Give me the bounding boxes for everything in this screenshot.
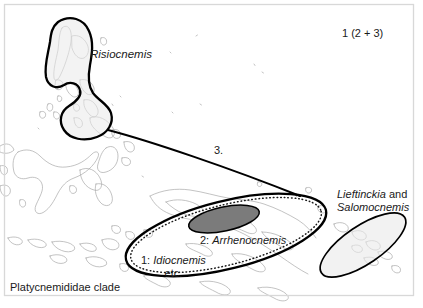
label-risiocnemis: Risiocnemis — [90, 48, 152, 62]
speckle-9 — [38, 128, 39, 129]
coast-java-w — [19, 199, 25, 207]
coast-sunda-6 — [50, 255, 67, 264]
genus-lieftinckia: Lieftinckia — [337, 188, 386, 200]
coast-sumatra-n — [0, 165, 8, 174]
coast-sunda-5 — [102, 239, 119, 250]
speckle-3 — [262, 72, 264, 73]
coast-sumatra-s — [0, 185, 10, 196]
link-3-connector — [108, 130, 300, 196]
label-platycnemididae-clade: Platycnemididae clade — [10, 281, 120, 294]
label-arrhenocnemis-number: 2: — [200, 234, 212, 246]
speckle-7 — [112, 104, 113, 106]
coast-small-12 — [305, 187, 311, 193]
biogeography-figure: Risiocnemis 1 (2 + 3) 3. Lieftinckia and… — [0, 0, 423, 308]
label-idiocnemis-number: 1: — [141, 254, 153, 266]
speckle-4 — [170, 52, 171, 53]
speckle-10 — [142, 176, 144, 177]
label-lieftinckia-salomocnemis: Lieftinckia and Salomocnemis — [337, 188, 409, 214]
coast-sulawesi-n — [97, 146, 118, 172]
speckle-2 — [254, 64, 255, 66]
speckle-11 — [296, 196, 297, 197]
coast-small-8 — [100, 37, 106, 45]
label-lieftinckia-line1: Lieftinckia and — [337, 188, 409, 201]
coast-buru — [112, 225, 121, 233]
speckle-6 — [172, 112, 173, 113]
label-arrhenocnemis: 2: Arrhenocnemis — [200, 234, 286, 247]
label-idiocnemis: 1: Idiocnemis etc. — [141, 254, 206, 280]
coast-new-britain — [334, 223, 348, 233]
speckle-5 — [200, 104, 202, 105]
conjunction-and: and — [386, 188, 407, 200]
genus-salomocnemis: Salomocnemis — [337, 201, 409, 213]
coast-cape-york — [258, 287, 288, 301]
coast-small-3 — [57, 96, 62, 102]
coast-sulawesi-w — [80, 168, 102, 190]
figure-canvas — [0, 0, 423, 308]
label-idiocnemis-line1: 1: Idiocnemis — [141, 254, 206, 267]
coast-small-4 — [47, 103, 53, 111]
label-lieftinckia-line2: Salomocnemis — [337, 201, 409, 214]
speckle-8 — [120, 96, 121, 97]
coast-sunda-3 — [52, 241, 75, 252]
coast-small-13 — [257, 182, 262, 187]
genus-idiocnemis: Idiocnemis — [153, 254, 206, 266]
label-idiocnemis-etc: etc. — [141, 267, 206, 280]
coast-sulawesi-se — [95, 184, 112, 206]
coast-sunda-1 — [8, 237, 22, 245]
coast-timor — [86, 257, 107, 267]
label-link-3: 3. — [214, 144, 223, 157]
arrhenocnemis-range — [186, 200, 261, 238]
coast-halmahera — [124, 141, 134, 152]
label-clade-code: 1 (2 + 3) — [342, 27, 383, 40]
speckle-1 — [196, 35, 198, 36]
coast-torres — [200, 281, 230, 295]
coast-malay-pen — [0, 144, 14, 153]
coast-small-5 — [39, 111, 45, 118]
coast-small-6 — [53, 112, 59, 119]
genus-arrhenocnemis: Arrhenocnemis — [212, 234, 286, 246]
coast-san-cristobal — [392, 265, 401, 272]
coast-seram — [126, 231, 135, 239]
risiocnemis-range — [45, 18, 111, 139]
coast-sunda-4 — [80, 243, 96, 251]
coast-sunda-2 — [28, 239, 46, 248]
coast-small-9 — [69, 185, 76, 193]
coast-moluccas — [122, 157, 131, 165]
